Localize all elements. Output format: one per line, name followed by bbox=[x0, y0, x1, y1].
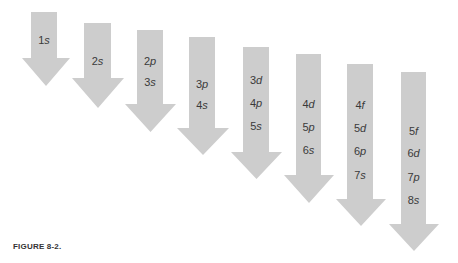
orbital-label: 5f bbox=[409, 125, 418, 137]
arrows-layer bbox=[0, 0, 458, 263]
orbital-label: 2s bbox=[92, 55, 104, 67]
down-arrow-icon bbox=[22, 12, 70, 86]
orbital-label: 6p bbox=[354, 145, 366, 157]
orbital-label: 8s bbox=[408, 194, 420, 206]
orbital-label: 5s bbox=[250, 120, 262, 132]
orbital-label: 5d bbox=[354, 122, 366, 134]
orbital-label: 4f bbox=[355, 99, 364, 111]
orbital-label: 7s bbox=[354, 169, 366, 181]
down-arrow-icon bbox=[231, 47, 282, 179]
orbital-label: 1s bbox=[38, 34, 50, 46]
orbital-label: 3d bbox=[250, 74, 262, 86]
orbital-label: 5p bbox=[302, 121, 314, 133]
figure-caption: FIGURE 8-2. bbox=[13, 242, 61, 251]
orbital-label: 6s bbox=[303, 144, 315, 156]
orbital-label: 6d bbox=[407, 147, 419, 159]
orbital-label: 2p bbox=[144, 55, 156, 67]
orbital-label: 3s bbox=[144, 76, 156, 88]
down-arrow-icon bbox=[177, 37, 229, 155]
orbital-label: 3p bbox=[196, 78, 208, 90]
aufbau-diagram: 1s2s2p3s3p4s3d4p5s4d5p6s4f5d6p7s5f6d7p8s… bbox=[0, 0, 458, 263]
orbital-label: 7p bbox=[407, 171, 419, 183]
orbital-label: 4d bbox=[302, 98, 314, 110]
down-arrow-icon bbox=[389, 72, 439, 251]
orbital-label: 4s bbox=[196, 99, 208, 111]
orbital-label: 4p bbox=[250, 97, 262, 109]
